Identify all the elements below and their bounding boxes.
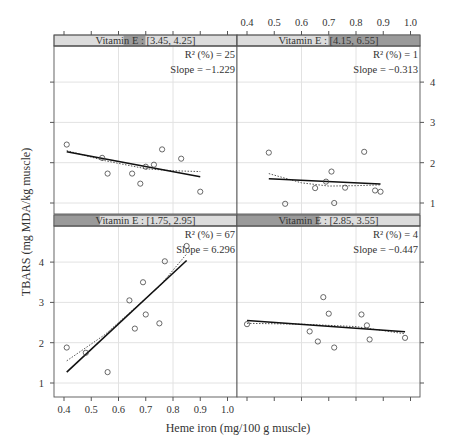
slope-label: Slope = −0.447 (353, 244, 418, 255)
r-squared-label: R² (%) = 4 (373, 229, 419, 241)
y-tick-label-left: 2 (39, 338, 44, 349)
panel-bottom-right: Vitamin E : [2.85, 3.55]R² (%) = 4Slope … (237, 215, 420, 397)
r-squared-label: R² (%) = 67 (185, 229, 235, 241)
x-tick-label: 0.7 (139, 404, 152, 415)
x-tick-label-top: 1.0 (404, 17, 417, 28)
slope-label: Slope = 6.296 (176, 244, 235, 255)
y-tick-label-left: 3 (39, 297, 44, 308)
x-tick-label-top: 0.7 (322, 17, 335, 28)
x-tick-label: 0.9 (194, 404, 207, 415)
slope-label: Slope = −0.313 (353, 64, 418, 75)
x-tick-label-top: 0.9 (377, 17, 390, 28)
x-axis-label: Heme iron (mg/100 g muscle) (166, 421, 311, 435)
x-tick-label-top: 0.4 (240, 17, 254, 28)
x-tick-label: 0.8 (166, 404, 179, 415)
r-squared-label: R² (%) = 1 (373, 49, 418, 61)
panel-bottom-left: Vitamin E : [1.75, 2.95]R² (%) = 67Slope… (54, 215, 237, 397)
y-tick-label-right: 2 (430, 158, 435, 169)
x-tick-label-top: 0.6 (295, 17, 308, 28)
x-tick-label-top: 0.5 (268, 17, 281, 28)
strip-label: Vitamin E : [4.15, 6.55] (279, 35, 379, 46)
x-tick-label: 0.5 (85, 404, 98, 415)
strip-label: Vitamin E : [3.45, 4.25] (96, 35, 196, 46)
y-axis-label: TBARS (mg MDA/kg muscle) (19, 148, 33, 296)
y-tick-label-right: 1 (430, 198, 435, 209)
panels-group: Vitamin E : [3.45, 4.25]R² (%) = 25Slope… (54, 35, 420, 397)
strip-label: Vitamin E : [1.75, 2.95] (96, 215, 196, 226)
y-tick-label-left: 4 (39, 257, 45, 268)
strip-range-shade (54, 215, 100, 226)
panel-top-left: Vitamin E : [3.45, 4.25]R² (%) = 25Slope… (54, 35, 237, 214)
x-tick-label: 1.0 (221, 404, 234, 415)
slope-label: Slope = −1.229 (170, 64, 235, 75)
y-tick-label-left: 1 (39, 378, 44, 389)
y-tick-label-right: 4 (430, 77, 436, 88)
x-tick-label: 0.4 (57, 404, 71, 415)
strip-label: Vitamin E : [2.85, 3.55] (279, 215, 379, 226)
x-tick-label-top: 0.8 (349, 17, 362, 28)
y-tick-label-right: 3 (430, 117, 435, 128)
r-squared-label: R² (%) = 25 (185, 49, 235, 61)
x-tick-label: 0.6 (112, 404, 125, 415)
trellis-scatter-chart: Vitamin E : [3.45, 4.25]R² (%) = 25Slope… (0, 0, 452, 448)
panel-top-right: Vitamin E : [4.15, 6.55]R² (%) = 1Slope … (237, 35, 420, 214)
